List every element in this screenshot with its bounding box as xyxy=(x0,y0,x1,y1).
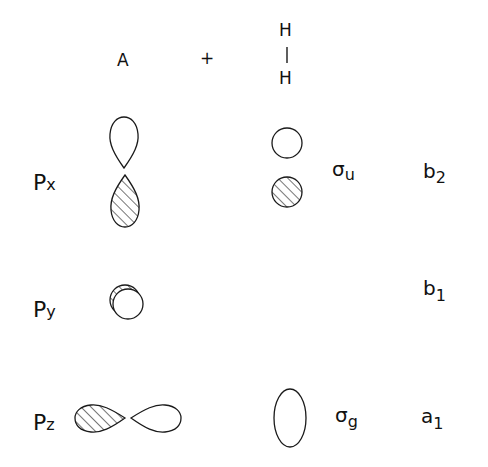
atom-label: A xyxy=(117,50,129,70)
orbital-label-main: Pz xyxy=(33,410,55,435)
row-px: Px σu b2 xyxy=(33,117,446,227)
pz-lobe-left-hatched-icon xyxy=(75,405,125,432)
px-lobe-top-icon xyxy=(110,117,138,168)
h2-symmetry-label: σg xyxy=(335,403,358,431)
h2-symmetry-label: σu xyxy=(332,157,355,184)
orbital-correlation-diagram: A + H H Px σu b2 Py b1 Pz σg a1 xyxy=(0,0,488,467)
px-lobe-bottom-hatched-icon xyxy=(111,175,139,227)
h-atom-top: H xyxy=(279,20,292,40)
row-pz: Pz σg a1 xyxy=(33,389,443,447)
group-symmetry-label: a1 xyxy=(421,404,443,433)
row-py: Py b1 xyxy=(33,276,446,322)
group-symmetry-label: b2 xyxy=(423,159,446,187)
h2-circle-bottom-hatched-icon xyxy=(272,177,302,207)
pz-lobe-right-icon xyxy=(131,405,181,432)
plus-sign: + xyxy=(200,48,214,68)
h2-ellipse-icon xyxy=(274,389,306,447)
py-front-lobe-icon xyxy=(113,289,143,319)
h-atom-bottom: H xyxy=(279,68,292,88)
orbital-label-main: Px xyxy=(33,170,56,195)
header: A + H H xyxy=(117,20,292,88)
group-symmetry-label: b1 xyxy=(423,276,446,305)
h2-circle-top-icon xyxy=(272,128,302,158)
orbital-label-main: Py xyxy=(33,297,56,322)
